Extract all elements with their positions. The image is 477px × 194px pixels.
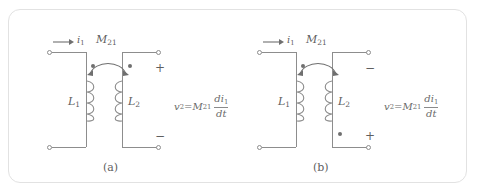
wire-secondary-bottom-b [332,147,367,148]
caption-b: (b) [313,162,329,173]
current-arrow-icon-a [53,38,75,46]
wire-secondary-top-b [332,52,367,53]
current-label-b: i1 [287,35,295,47]
terminal-secondary-top-b [366,50,371,55]
coupling-arc-icon-b [295,56,341,78]
polarity-sign-bottom-b: + [365,130,375,142]
coil-secondary-b [321,79,333,123]
caption-a: (a) [103,162,118,173]
wire-primary-bottom-a [52,147,86,148]
terminal-primary-bottom-a [47,145,52,150]
polarity-sign-bottom-a: − [155,130,165,142]
wire-primary-bottom-b [262,147,296,148]
terminal-primary-bottom-b [257,145,262,150]
mutual-inductance-label-a: M21 [96,34,117,47]
wire-secondary-top-a [122,52,157,53]
current-arrow-icon-b [263,38,285,46]
current-label-a: i1 [77,35,85,47]
terminal-secondary-bottom-b [366,145,371,150]
wire-primary-top-b [262,52,296,53]
coil-secondary-a [111,79,123,123]
circuit-panel-a: i1 M21 L1 L2 + − v2 = M21 [11,10,240,182]
inductor-label-secondary-b: L2 [338,96,350,109]
coil-primary-a [86,79,98,123]
inductor-label-primary-b: L1 [278,96,290,109]
circuit-panel-b: i1 M21 L1 L2 − + v2 = M21 [237,10,466,182]
polarity-sign-top-a: + [155,62,165,74]
inductor-label-secondary-a: L2 [128,96,140,109]
terminal-secondary-bottom-a [156,145,161,150]
inductor-label-primary-a: L1 [68,96,80,109]
polarity-sign-top-b: − [365,62,375,74]
equation-b: v2 = M21 di1 dt [384,94,440,120]
figure-frame: i1 M21 L1 L2 + − v2 = M21 [8,9,467,183]
equation-a: v2 = M21 di1 dt [174,94,230,120]
equation-fraction-b: di1 dt [422,94,440,120]
coupling-arc-icon-a [85,56,131,78]
polarity-dot-secondary-b [338,132,342,136]
equation-fraction-a: di1 dt [212,94,230,120]
terminal-secondary-top-a [156,50,161,55]
wire-primary-top-a [52,52,86,53]
mutual-inductance-label-b: M21 [306,34,327,47]
coil-primary-b [296,79,308,123]
wire-secondary-bottom-a [122,147,157,148]
